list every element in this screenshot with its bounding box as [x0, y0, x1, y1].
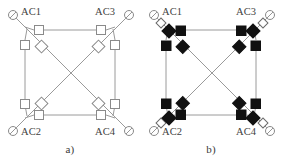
open-square-switch-bottom-left[interactable]	[35, 111, 44, 120]
tie-ac1-left	[25, 29, 27, 40]
filled-square-switch-right-upper[interactable]	[251, 41, 261, 51]
filled-square-switch-top-right[interactable]	[237, 26, 247, 36]
panel-a: AC1 AC3 AC2 AC4 a)	[0, 0, 140, 165]
open-diamond-marker-ac3[interactable]	[258, 18, 268, 28]
filled-square-switch-bottom-right[interactable]	[237, 110, 247, 120]
open-diamond-switch-ac1-diag[interactable]	[35, 40, 48, 53]
panel-b-caption: b)	[141, 143, 281, 155]
node-label-ac3: AC3	[236, 6, 256, 17]
open-square-switch-right-upper[interactable]	[111, 41, 120, 50]
lead-ac4	[120, 122, 126, 128]
filled-square-switch-bottom-left[interactable]	[176, 110, 186, 120]
filled-square-switch-right-lower[interactable]	[251, 99, 261, 109]
filled-square-switch-left-lower[interactable]	[162, 99, 172, 109]
tie-ac2-bottom	[25, 115, 34, 118]
filled-square-switch-left-upper[interactable]	[162, 41, 172, 51]
filled-diamond-corner-ac3[interactable]	[246, 24, 260, 38]
open-square-switch-bottom-right[interactable]	[97, 111, 106, 120]
open-square-switch-top-right[interactable]	[97, 26, 106, 35]
open-square-switch-left-lower[interactable]	[21, 100, 30, 109]
filled-diamond-switch-ac3-diag[interactable]	[233, 40, 246, 53]
node-label-ac1: AC1	[162, 6, 182, 17]
filled-square-switch-top-left[interactable]	[176, 26, 186, 36]
open-diamond-switch-ac3-diag[interactable]	[92, 40, 105, 53]
panel-b: AC1 AC3 AC2 AC4 b)	[141, 0, 281, 165]
node-label-ac1: AC1	[21, 6, 41, 17]
figure-sheet: AC1 AC3 AC2 AC4 a)	[0, 0, 281, 165]
panel-a-caption: a)	[0, 143, 140, 155]
open-square-switch-top-left[interactable]	[35, 26, 44, 35]
panel-a-schematic	[0, 0, 140, 145]
node-label-ac2: AC2	[162, 126, 182, 137]
lead-ac3	[120, 18, 126, 24]
open-diamond-switch-ac4-diag[interactable]	[92, 97, 105, 110]
lead-ac1	[16, 18, 22, 24]
panel-b-schematic	[141, 0, 281, 145]
open-square-switch-right-lower[interactable]	[111, 100, 120, 109]
open-diamond-marker-ac4[interactable]	[258, 118, 268, 128]
filled-diamond-corner-ac1[interactable]	[162, 24, 176, 38]
node-label-ac3: AC3	[95, 6, 115, 17]
node-label-ac4: AC4	[95, 126, 115, 137]
filled-diamond-switch-ac1-diag[interactable]	[176, 40, 189, 53]
open-square-switch-left-upper[interactable]	[21, 41, 30, 50]
node-label-ac4: AC4	[236, 126, 256, 137]
open-diamond-marker-ac1[interactable]	[156, 18, 166, 28]
filled-diamond-switch-ac2-diag[interactable]	[176, 97, 189, 110]
open-diamond-switch-ac2-diag[interactable]	[35, 97, 48, 110]
filled-diamond-switch-ac4-diag[interactable]	[233, 97, 246, 110]
node-label-ac2: AC2	[21, 126, 41, 137]
tie-ac3-top	[106, 27, 115, 30]
